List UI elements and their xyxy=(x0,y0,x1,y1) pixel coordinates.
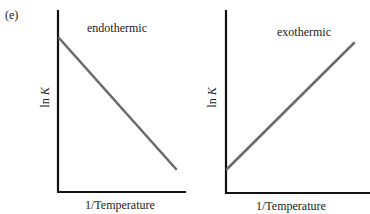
exothermic-line xyxy=(227,43,354,169)
endothermic-ylabel-var: K xyxy=(38,87,52,95)
endothermic-title: endothermic xyxy=(87,21,147,36)
exothermic-xlabel: 1/Temperature xyxy=(256,199,326,214)
endothermic-ylabel: ln K xyxy=(38,83,53,113)
exothermic-title: exothermic xyxy=(277,25,331,40)
exothermic-ylabel-prefix: ln xyxy=(205,95,219,107)
exothermic-ylabel: ln K xyxy=(205,83,220,113)
endothermic-xlabel: 1/Temperature xyxy=(85,198,155,213)
endothermic-axes xyxy=(57,10,186,193)
exothermic-ylabel-var: K xyxy=(205,87,219,95)
endothermic-line xyxy=(59,38,176,169)
endothermic-ylabel-prefix: ln xyxy=(38,95,52,107)
